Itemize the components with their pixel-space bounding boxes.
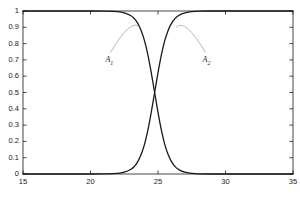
y-tick-label: 0 bbox=[0, 170, 19, 178]
x-tick-label: 15 bbox=[8, 178, 38, 186]
leader-line-a2 bbox=[176, 25, 205, 53]
y-axis-ticks bbox=[23, 11, 293, 174]
annotation-label-a1: A1 bbox=[105, 56, 113, 66]
y-tick-label: 1 bbox=[0, 7, 19, 15]
x-tick-label: 20 bbox=[76, 178, 106, 186]
y-tick-label: 0.4 bbox=[0, 105, 19, 113]
y-tick-label: 0.5 bbox=[0, 89, 19, 97]
y-tick-label: 0.2 bbox=[0, 137, 19, 145]
y-tick-label: 0.7 bbox=[0, 56, 19, 64]
x-tick-label: 25 bbox=[143, 178, 173, 186]
chart-figure: 1520253035 00.10.20.30.40.50.60.70.80.91… bbox=[0, 0, 300, 198]
curve-a2 bbox=[23, 11, 293, 174]
y-tick-label: 0.1 bbox=[0, 154, 19, 162]
curve-a1 bbox=[23, 11, 293, 174]
plot-canvas bbox=[0, 0, 300, 198]
y-tick-label: 0.6 bbox=[0, 72, 19, 80]
x-tick-label: 30 bbox=[211, 178, 241, 186]
y-tick-label: 0.3 bbox=[0, 121, 19, 129]
x-axis-ticks bbox=[23, 11, 293, 174]
annotation-label-a2: A2 bbox=[203, 56, 211, 66]
x-tick-label: 35 bbox=[278, 178, 300, 186]
y-tick-label: 0.9 bbox=[0, 23, 19, 31]
plot-axes-frame bbox=[23, 11, 293, 174]
y-tick-label: 0.8 bbox=[0, 40, 19, 48]
leader-line-a1 bbox=[110, 25, 139, 53]
